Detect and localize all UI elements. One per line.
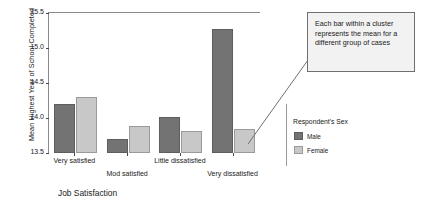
bar-male-3 bbox=[212, 29, 233, 153]
bar-male-2 bbox=[159, 117, 180, 153]
x-axis-title: Job Satisfaction bbox=[58, 188, 117, 198]
x-axis-tick-mark bbox=[127, 153, 128, 156]
bar-female-1 bbox=[129, 126, 150, 153]
bar-female-0 bbox=[76, 97, 97, 153]
y-axis-tick-label: 15.5 bbox=[30, 8, 44, 15]
plot-area: 15.515.014.514.013.5 bbox=[48, 12, 260, 153]
x-axis-label: Very dissatisfied bbox=[207, 170, 258, 177]
y-axis-tick-mark bbox=[46, 13, 49, 14]
legend-swatch-male-icon bbox=[294, 132, 303, 140]
y-axis-tick-mark bbox=[46, 48, 49, 49]
x-axis-tick-mark bbox=[74, 153, 75, 156]
x-axis-label: Mod satisfied bbox=[107, 170, 148, 177]
plot-inner bbox=[49, 13, 260, 153]
bar-chart: Mean Highest Year of School Completed 15… bbox=[0, 0, 423, 210]
y-axis-tick-label: 15.0 bbox=[30, 43, 44, 50]
bar-male-0 bbox=[54, 104, 75, 153]
bar-female-2 bbox=[181, 131, 202, 153]
legend-swatch-female-icon bbox=[294, 146, 303, 154]
bar-male-1 bbox=[107, 139, 128, 153]
y-axis-tick-mark bbox=[46, 153, 49, 154]
legend: Respondent's Sex Male Female bbox=[286, 104, 392, 166]
callout-annotation: Each bar within a cluster represents the… bbox=[307, 12, 415, 72]
x-axis-tick-mark bbox=[180, 153, 181, 156]
legend-item-female: Female bbox=[294, 146, 328, 154]
legend-label-male: Male bbox=[307, 133, 321, 140]
legend-label-female: Female bbox=[307, 147, 328, 154]
y-axis-tick-mark bbox=[46, 118, 49, 119]
x-axis-label: Little dissatisfied bbox=[154, 157, 205, 164]
x-axis-label: Very satisfied bbox=[54, 157, 96, 164]
bar-female-3 bbox=[234, 129, 255, 153]
y-axis-tick-mark bbox=[46, 83, 49, 84]
legend-item-male: Male bbox=[294, 132, 321, 140]
x-axis-tick-mark bbox=[233, 153, 234, 156]
y-axis-tick-label: 14.5 bbox=[30, 78, 44, 85]
y-axis-tick-label: 13.5 bbox=[30, 148, 44, 155]
y-axis-tick-label: 14.0 bbox=[30, 113, 44, 120]
legend-title: Respondent's Sex bbox=[293, 118, 348, 125]
